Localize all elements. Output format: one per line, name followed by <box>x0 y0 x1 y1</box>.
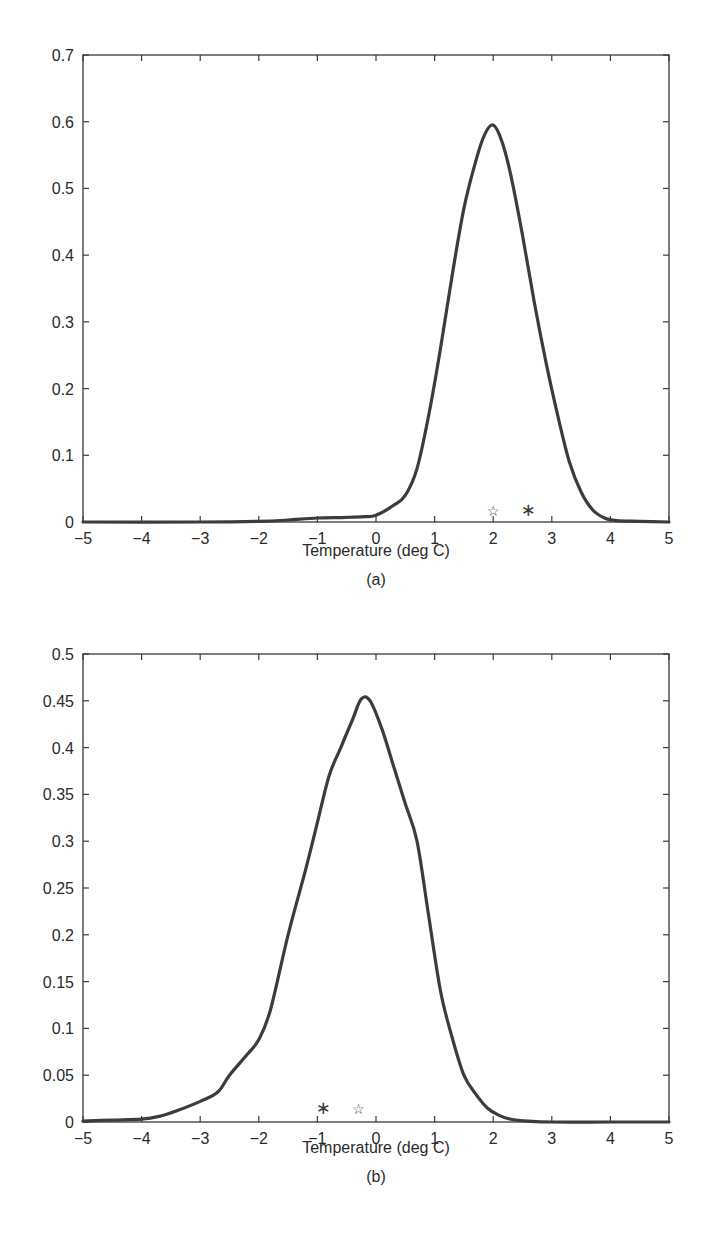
y-tick-label: 0.2 <box>52 927 74 944</box>
y-tick-label: 0.5 <box>52 646 74 663</box>
x-tick-label: 3 <box>547 530 556 547</box>
x-tick-label: −5 <box>74 1130 92 1147</box>
y-tick-label: 0.1 <box>52 1020 74 1037</box>
x-tick-label: −5 <box>74 530 92 547</box>
y-tick-label: 0.4 <box>52 247 74 264</box>
chart-figure: −5−4−3−2−101234500.10.20.30.40.50.60.7☆∗… <box>0 0 707 1245</box>
y-tick-label: 0 <box>65 514 74 531</box>
y-tick-label: 0.2 <box>52 381 74 398</box>
y-tick-label: 0.7 <box>52 47 74 64</box>
asterisk-marker-icon: ∗ <box>316 1097 331 1118</box>
x-tick-label: −4 <box>132 1130 150 1147</box>
x-tick-label: −2 <box>250 1130 268 1147</box>
asterisk-marker-icon: ∗ <box>521 499 536 520</box>
x-axis-label: Temperature (deg C) <box>302 1139 450 1156</box>
axes-frame <box>83 55 669 522</box>
chart-panel-b: −5−4−3−2−101234500.050.10.150.20.250.30.… <box>43 646 674 1185</box>
x-tick-label: 5 <box>665 1130 674 1147</box>
y-tick-label: 0.4 <box>52 740 74 757</box>
x-tick-label: −4 <box>132 530 150 547</box>
x-tick-label: −3 <box>191 1130 209 1147</box>
y-tick-label: 0.3 <box>52 314 74 331</box>
y-tick-label: 0.6 <box>52 114 74 131</box>
y-tick-label: 0.15 <box>43 974 74 991</box>
y-tick-label: 0.25 <box>43 880 74 897</box>
x-tick-label: 5 <box>665 530 674 547</box>
chart-panel-a: −5−4−3−2−101234500.10.20.30.40.50.60.7☆∗… <box>52 47 674 588</box>
panel-label: (a) <box>366 571 386 588</box>
axes-frame <box>83 654 669 1122</box>
x-tick-label: −2 <box>250 530 268 547</box>
y-tick-label: 0.3 <box>52 833 74 850</box>
x-tick-label: 2 <box>489 530 498 547</box>
density-curve <box>83 697 669 1122</box>
density-curve <box>83 125 669 522</box>
y-tick-label: 0.45 <box>43 693 74 710</box>
y-tick-label: 0.5 <box>52 180 74 197</box>
x-tick-label: 3 <box>547 1130 556 1147</box>
y-tick-label: 0.1 <box>52 447 74 464</box>
x-axis-label: Temperature (deg C) <box>302 542 450 559</box>
y-tick-label: 0 <box>65 1114 74 1131</box>
x-tick-label: 4 <box>606 530 615 547</box>
x-tick-label: −3 <box>191 530 209 547</box>
y-tick-label: 0.05 <box>43 1067 74 1084</box>
panel-label: (b) <box>366 1168 386 1185</box>
x-tick-label: 4 <box>606 1130 615 1147</box>
star-marker-icon: ☆ <box>487 503 500 519</box>
x-tick-label: 2 <box>489 1130 498 1147</box>
y-tick-label: 0.35 <box>43 786 74 803</box>
star-marker-icon: ☆ <box>352 1101 365 1117</box>
